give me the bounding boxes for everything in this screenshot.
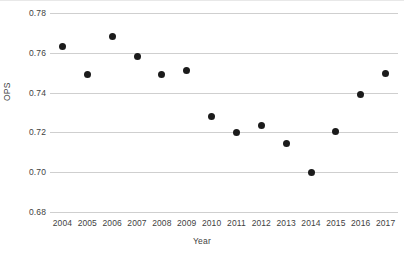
scatter-chart: OPS Year 0.780.760.740.720.700.682004200…: [0, 0, 404, 257]
data-point: [208, 113, 215, 120]
y-axis-tick-label: 0.74: [2, 89, 46, 98]
gridline-y: [50, 132, 398, 133]
data-point: [84, 71, 91, 78]
y-axis-tick-label: 0.70: [2, 168, 46, 177]
gridline-y: [50, 212, 398, 213]
data-point: [258, 122, 265, 129]
data-point: [59, 43, 66, 50]
data-point: [283, 140, 290, 147]
data-point: [183, 67, 190, 74]
gridline-y: [50, 53, 398, 54]
y-axis-tick-label: 0.68: [2, 208, 46, 217]
y-axis-tick-label: 0.78: [2, 9, 46, 18]
chart-top-border: [0, 0, 404, 1]
data-point: [109, 33, 116, 40]
plot-area: [50, 13, 398, 212]
gridline-y: [50, 13, 398, 14]
data-point: [233, 129, 240, 136]
data-point: [134, 53, 141, 60]
y-axis-tick-label: 0.76: [2, 49, 46, 58]
data-point: [332, 128, 339, 135]
data-point: [308, 169, 315, 176]
data-point: [158, 71, 165, 78]
gridline-y: [50, 93, 398, 94]
x-axis-title: Year: [0, 236, 404, 246]
data-point: [357, 91, 364, 98]
x-axis-tick-label: 2017: [366, 219, 404, 228]
gridline-y: [50, 172, 398, 173]
data-point: [382, 70, 389, 77]
y-axis-tick-label: 0.72: [2, 128, 46, 137]
